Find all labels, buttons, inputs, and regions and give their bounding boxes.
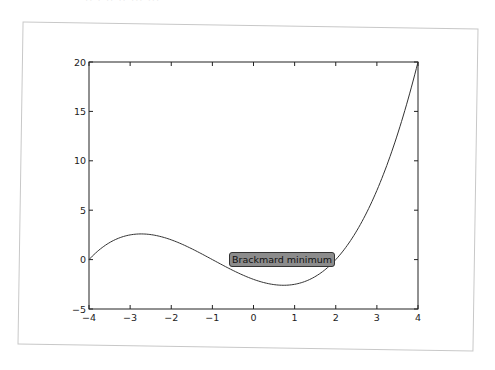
x-tick-label: 3 (374, 312, 380, 323)
x-tick-label: −3 (123, 312, 137, 323)
chart: −4−3−2−101234 −505101520 (0, 0, 495, 370)
y-tick-label: −5 (72, 304, 86, 315)
x-tick-label: 1 (292, 312, 298, 323)
x-tick-label: 2 (333, 312, 339, 323)
x-tick-label: 4 (415, 312, 421, 323)
x-tick-label: −1 (205, 312, 219, 323)
x-tick-label: 0 (250, 312, 256, 323)
y-tick-label: 20 (74, 57, 86, 68)
y-tick-label: 10 (74, 155, 86, 166)
annotation-box: Brackmard minimum (229, 252, 335, 267)
y-tick-label: 15 (74, 106, 86, 117)
y-tick-label: 0 (80, 254, 86, 265)
x-tick-label: −2 (164, 312, 178, 323)
x-ticks: −4−3−2−101234 (82, 62, 421, 323)
axes (89, 62, 418, 309)
plot-area-border (89, 62, 418, 309)
y-tick-label: 5 (80, 205, 86, 216)
